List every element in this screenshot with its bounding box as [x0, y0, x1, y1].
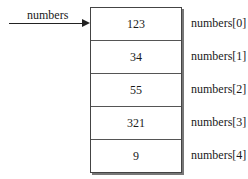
index-label-0: numbers[0]: [191, 16, 246, 31]
array-cell-3: 321: [91, 107, 181, 140]
pointer-label: numbers: [27, 8, 68, 23]
arrow-right-icon: [9, 23, 84, 24]
index-label-3: numbers[3]: [191, 115, 246, 130]
array-cell-2: 55: [91, 74, 181, 107]
array-box: 123 34 55 321 9: [90, 7, 182, 173]
arrow-head-icon: [82, 19, 90, 27]
array-cell-1: 34: [91, 41, 181, 74]
array-cell-0: 123: [91, 8, 181, 41]
array-cell-4: 9: [91, 140, 181, 172]
index-label-1: numbers[1]: [191, 49, 246, 64]
index-label-4: numbers[4]: [191, 148, 246, 163]
index-label-2: numbers[2]: [191, 82, 246, 97]
